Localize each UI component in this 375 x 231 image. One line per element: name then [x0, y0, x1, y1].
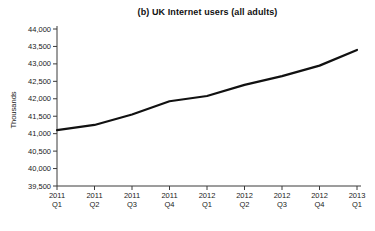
- y-tick-label: 44,000: [28, 25, 51, 34]
- x-tick-label: 2011Q3: [124, 191, 140, 209]
- y-tick-label: 40,000: [28, 164, 51, 173]
- x-tick-label: 2011Q1: [49, 191, 65, 209]
- line-chart: 39,50040,00040,50041,00041,50042,00042,5…: [0, 0, 375, 231]
- y-tick-label: 42,500: [28, 77, 51, 86]
- chart-title: (b) UK Internet users (all adults): [40, 7, 375, 17]
- y-tick-label: 41,500: [28, 112, 51, 121]
- x-tick-label: 2012Q4: [311, 191, 328, 209]
- x-tick-label: 2012Q3: [274, 191, 291, 209]
- y-tick-label: 40,500: [28, 147, 51, 156]
- chart-figure: (b) UK Internet users (all adults) Thous…: [0, 0, 375, 231]
- x-tick-label: 2013Q1: [349, 191, 366, 209]
- x-tick-label: 2012Q2: [236, 191, 253, 209]
- y-axis-label: Thousands: [9, 91, 18, 128]
- y-tick-label: 43,000: [28, 59, 51, 68]
- y-tick-label: 43,500: [28, 42, 51, 51]
- y-tick-label: 39,500: [28, 182, 51, 191]
- x-tick-label: 2011Q2: [86, 191, 102, 209]
- data-line-uk-internet-users: [57, 50, 357, 130]
- y-tick-label: 41,000: [28, 129, 51, 138]
- y-tick-label: 42,000: [28, 94, 51, 103]
- x-tick-label: 2012Q1: [199, 191, 216, 209]
- x-tick-label: 2011Q4: [161, 191, 177, 209]
